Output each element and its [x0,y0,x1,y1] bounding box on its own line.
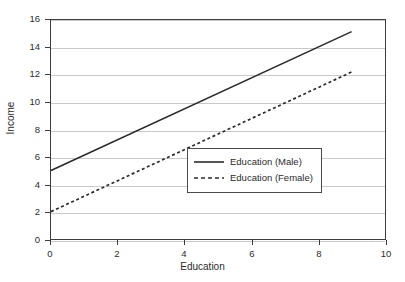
x-tick-label: 4 [181,249,186,259]
legend-label-female: Education (Female) [230,173,313,183]
y-tick-label: 10 [0,97,40,107]
y-tick-label: 8 [0,125,40,135]
series-layer [51,20,385,239]
legend-item-female[interactable]: Education (Female) [194,170,315,186]
y-tick-label: 2 [0,207,40,217]
y-tick-label: 12 [0,69,40,79]
chart-figure: Income 0246810121416 0246810 Education E… [0,0,405,282]
x-tick-label: 0 [47,249,52,259]
legend-swatch-dashed-icon [194,173,224,183]
x-tick-mark [252,240,253,245]
x-tick-mark [386,240,387,245]
plot-area [50,19,386,240]
x-tick-mark [117,240,118,245]
x-tick-label: 2 [114,249,119,259]
x-tick-label: 8 [316,249,321,259]
y-tick-label: 4 [0,180,40,190]
y-tick-label: 16 [0,14,40,24]
x-tick-mark [184,240,185,245]
gridline [51,241,385,242]
legend-item-male[interactable]: Education (Male) [194,154,315,170]
y-tick-label: 6 [0,152,40,162]
legend-label-male: Education (Male) [230,157,302,167]
x-tick-label: 6 [249,249,254,259]
chart-legend[interactable]: Education (Male) Education (Female) [187,148,322,193]
x-axis-title: Education [0,262,405,272]
y-tick-label: 14 [0,42,40,52]
x-tick-mark [319,240,320,245]
x-tick-label: 10 [381,249,392,259]
legend-swatch-solid-icon [194,157,224,167]
x-tick-mark [50,240,51,245]
y-tick-label: 0 [0,235,40,245]
